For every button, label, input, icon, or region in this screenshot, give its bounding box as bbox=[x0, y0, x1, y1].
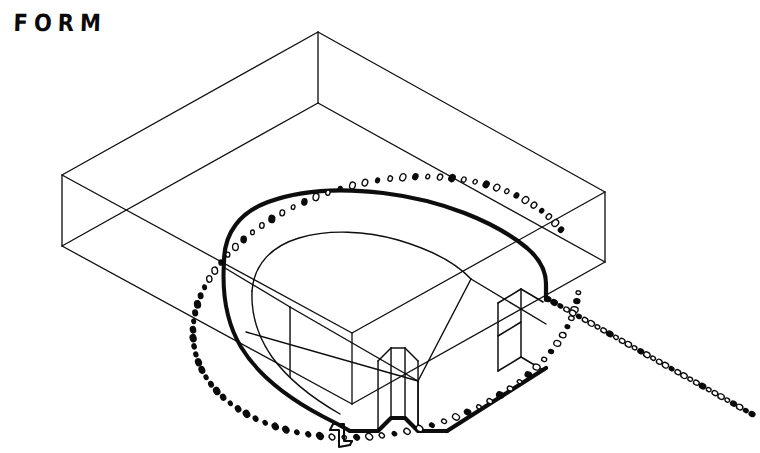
form-sketch-svg bbox=[0, 0, 760, 453]
drawing-sheet: FORM bbox=[0, 0, 760, 453]
central-form-left-end bbox=[224, 262, 350, 431]
central-form-bottom-edge bbox=[350, 368, 546, 431]
central-form-top-outline bbox=[224, 190, 546, 300]
bounding-box-wireframe bbox=[62, 32, 605, 404]
tangent-ray-dotted bbox=[544, 296, 755, 418]
